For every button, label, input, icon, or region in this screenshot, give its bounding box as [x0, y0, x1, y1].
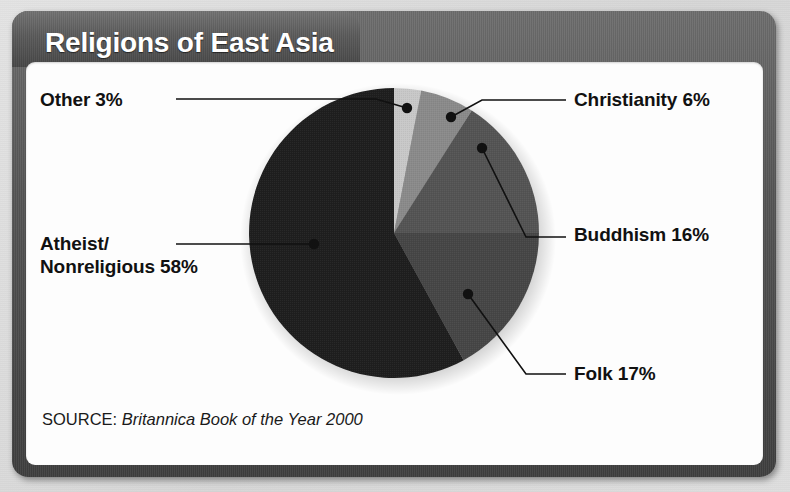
pie-label-atheist: Atheist/ Nonreligious 58%	[40, 232, 198, 278]
pie-slices	[249, 88, 539, 378]
source-label: SOURCE:	[42, 410, 117, 428]
leader-dot-other	[402, 103, 412, 113]
pie-label-other: Other 3%	[40, 88, 123, 111]
pie-label-christianity: Christianity 6%	[574, 88, 710, 111]
leader-dot-folk	[463, 289, 473, 299]
chart-page: Religions of East Asia	[0, 0, 790, 492]
chart-panel: Other 3% Christianity 6% Buddhism 16% Fo…	[26, 62, 763, 465]
title-banner: Religions of East Asia	[12, 11, 360, 67]
source-citation: Britannica Book of the Year 2000	[122, 410, 363, 428]
leader-dot-christianity	[446, 112, 456, 122]
pie-label-folk: Folk 17%	[574, 362, 656, 385]
pie-label-buddhism: Buddhism 16%	[574, 223, 709, 246]
source-note: SOURCE: Britannica Book of the Year 2000	[42, 410, 363, 429]
page-title: Religions of East Asia	[45, 27, 334, 59]
leader-dot-buddhism	[477, 143, 487, 153]
leader-dot-atheist	[309, 239, 319, 249]
